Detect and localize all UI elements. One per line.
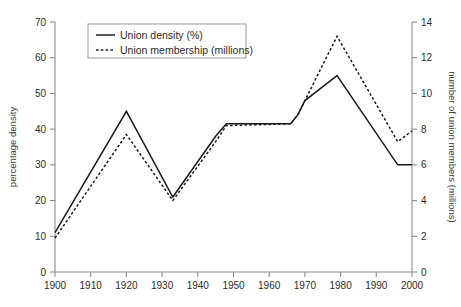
x-tick-label: 1980: [329, 280, 352, 291]
y2-tick-label: 14: [421, 17, 433, 28]
y-tick-label: 20: [35, 195, 47, 206]
x-tick-label: 1960: [258, 280, 281, 291]
x-tick-label: 2000: [401, 280, 424, 291]
union-density-chart: 0102030405060700246810121419001910192019…: [0, 0, 461, 307]
y2-tick-label: 0: [421, 267, 427, 278]
series-line-1: [55, 76, 412, 233]
x-tick-label: 1990: [365, 280, 388, 291]
x-tick-label: 1940: [187, 280, 210, 291]
x-tick-label: 1920: [115, 280, 138, 291]
y2-tick-label: 12: [421, 52, 433, 63]
y-tick-label: 40: [35, 124, 47, 135]
x-tick-label: 1970: [294, 280, 317, 291]
x-tick-label: 1910: [80, 280, 103, 291]
y-tick-label: 70: [35, 17, 47, 28]
y-tick-label: 30: [35, 159, 47, 170]
legend-label-1: Union density (%): [120, 29, 203, 41]
series-line-2: [55, 36, 412, 238]
y2-tick-label: 6: [421, 159, 427, 170]
y-tick-label: 0: [40, 267, 46, 278]
y2-tick-label: 10: [421, 88, 433, 99]
y2-axis-title: number of union members (millions): [447, 71, 458, 223]
x-tick-label: 1900: [44, 280, 67, 291]
chart-canvas: 0102030405060700246810121419001910192019…: [0, 0, 461, 307]
y2-tick-label: 8: [421, 124, 427, 135]
x-tick-label: 1930: [151, 280, 174, 291]
y-tick-label: 10: [35, 231, 47, 242]
y-tick-label: 50: [35, 88, 47, 99]
y-axis-title: percentage density: [7, 107, 18, 188]
y2-tick-label: 4: [421, 195, 427, 206]
legend-label-2: Union membership (millions): [120, 44, 253, 56]
x-tick-label: 1950: [222, 280, 245, 291]
y-tick-label: 60: [35, 52, 47, 63]
y2-tick-label: 2: [421, 231, 427, 242]
